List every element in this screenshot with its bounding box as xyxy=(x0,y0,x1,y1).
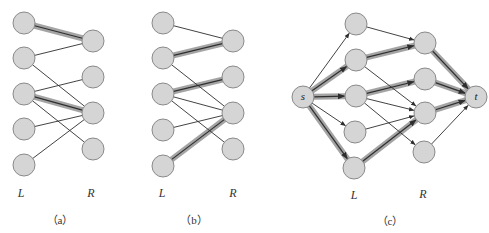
highlighted-edge xyxy=(367,46,414,58)
left-vertex xyxy=(345,49,367,71)
graph-canvas xyxy=(0,0,489,233)
edge xyxy=(35,115,83,126)
highlighted-edge xyxy=(363,120,416,161)
left-vertex xyxy=(343,157,365,179)
highlighted-edge xyxy=(314,96,345,97)
right-vertex xyxy=(413,141,435,163)
left-vertex xyxy=(13,47,35,69)
highlighted-edge xyxy=(435,100,465,109)
nodes xyxy=(13,12,104,176)
highlighted-edge xyxy=(174,80,223,92)
highlighted-edge xyxy=(312,67,347,91)
edge xyxy=(174,26,223,39)
left-vertex xyxy=(345,85,367,107)
bipartite-matching-figure: L R （a） L R （b） L R （c） s t xyxy=(0,0,489,233)
panel-a-right-set-label: R xyxy=(87,186,94,201)
left-vertex xyxy=(152,83,174,105)
right-vertex xyxy=(82,102,104,124)
panel-c-right-set-label: R xyxy=(419,187,426,202)
edge xyxy=(35,44,83,56)
left-vertex xyxy=(13,118,35,140)
right-vertex xyxy=(414,68,436,90)
right-vertex xyxy=(414,102,436,124)
right-vertex xyxy=(82,30,104,52)
sink-node-label: t xyxy=(474,90,477,102)
right-vertex xyxy=(82,138,104,160)
panel-a-left-set-label: L xyxy=(18,186,25,201)
panel-b-caption: （b） xyxy=(180,211,208,227)
left-vertex xyxy=(152,155,174,177)
left-vertex xyxy=(152,12,174,34)
left-vertex xyxy=(13,154,35,176)
edge xyxy=(367,99,414,111)
left-vertex xyxy=(345,13,367,35)
left-vertex xyxy=(152,119,174,141)
highlighted-edge xyxy=(174,44,223,56)
right-vertex xyxy=(222,138,244,160)
highlighted-edge xyxy=(35,26,83,38)
panel-b-left-set-label: L xyxy=(159,186,166,201)
nodes xyxy=(152,12,244,177)
panel-c-left-set-label: L xyxy=(351,188,358,203)
panel-a-caption: （a） xyxy=(47,211,74,227)
edge xyxy=(367,27,414,40)
source-node-label: s xyxy=(301,90,305,102)
panel-b-right-set-label: R xyxy=(229,186,236,201)
edges xyxy=(33,26,85,159)
highlighted-edge xyxy=(367,82,414,94)
left-vertex xyxy=(13,12,35,34)
left-vertex xyxy=(344,121,366,143)
right-vertex xyxy=(222,30,244,52)
highlighted-edge-halos xyxy=(172,44,224,160)
right-vertex xyxy=(414,32,436,54)
highlighted-edge-halos xyxy=(35,26,83,110)
right-vertex xyxy=(82,66,104,88)
panel-a-bipartite-graph xyxy=(13,12,104,176)
panel-b-bipartite-graph xyxy=(152,12,244,177)
panel-c-caption: （c） xyxy=(377,212,404,228)
left-vertex xyxy=(13,83,35,105)
edge xyxy=(35,80,83,92)
left-vertex xyxy=(152,47,174,69)
panel-c-flow-network xyxy=(292,13,487,179)
right-vertex xyxy=(222,102,244,124)
right-vertex xyxy=(222,66,244,88)
